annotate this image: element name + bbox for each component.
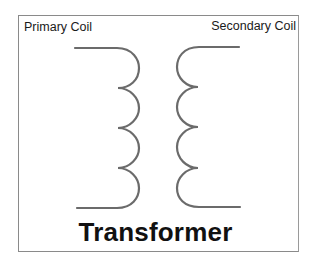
- diagram-title: Transformer: [0, 217, 311, 248]
- secondary-coil: [177, 47, 240, 207]
- primary-coil: [75, 48, 139, 208]
